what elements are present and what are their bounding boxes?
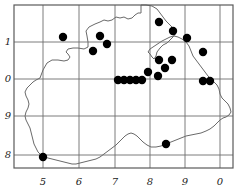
y-axis-tick-0: 0 xyxy=(2,74,14,84)
record-dot xyxy=(96,32,104,40)
y-axis-tick-1: 1 xyxy=(2,37,14,47)
record-dot xyxy=(183,34,191,42)
x-axis-tick-0: 0 xyxy=(214,177,226,187)
x-axis-tick-6: 6 xyxy=(73,177,85,187)
record-dot xyxy=(162,140,170,148)
record-dot xyxy=(154,72,162,80)
x-axis-tick-7: 7 xyxy=(109,177,121,187)
record-dot xyxy=(89,47,97,55)
record-dot xyxy=(155,56,163,64)
record-dot xyxy=(114,76,122,84)
record-dot xyxy=(59,33,67,41)
record-dot xyxy=(168,56,176,64)
record-dot xyxy=(199,48,207,56)
record-dot xyxy=(103,40,111,48)
record-dot xyxy=(39,153,47,161)
record-dot xyxy=(155,18,163,26)
x-axis-tick-5: 5 xyxy=(37,177,49,187)
y-axis-tick-9: 9 xyxy=(2,111,14,121)
x-axis-tick-8: 8 xyxy=(144,177,156,187)
record-dot xyxy=(169,27,177,35)
distribution-map-figure: 1 0 9 8 5 6 7 8 9 0 xyxy=(0,0,240,196)
map-plot-area xyxy=(0,0,240,196)
record-dot xyxy=(161,64,169,72)
record-dot xyxy=(144,68,152,76)
record-dot xyxy=(206,77,214,85)
x-axis-tick-9: 9 xyxy=(179,177,191,187)
y-axis-tick-8: 8 xyxy=(2,150,14,160)
plot-background xyxy=(14,5,233,168)
